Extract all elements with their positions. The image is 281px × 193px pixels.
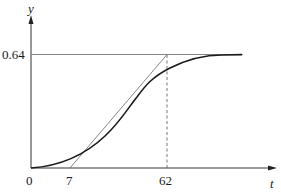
x-tick-0: 0 [26, 174, 33, 187]
y-axis-label: y [28, 2, 34, 15]
y-tick-0-64: 0.64 [2, 48, 25, 61]
x-axis-label: t [270, 177, 274, 190]
response-curve [31, 55, 242, 168]
chart-canvas [0, 0, 281, 193]
x-axis-arrow-icon [268, 166, 277, 171]
x-tick-7: 7 [66, 174, 73, 187]
x-tick-62: 62 [159, 174, 172, 187]
y-axis-arrow-icon [29, 15, 34, 24]
